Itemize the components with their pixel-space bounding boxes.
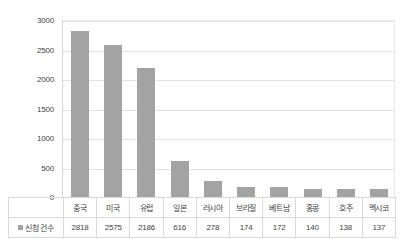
data-table: 중국미국유럽일본러시아브라질베트남홍콩호주멕시코 신청 건수 281825752… bbox=[8, 197, 396, 238]
bar bbox=[304, 189, 322, 197]
category-cell: 미국 bbox=[97, 198, 130, 218]
value-cell: 616 bbox=[163, 218, 196, 238]
bar bbox=[71, 31, 89, 197]
category-cell: 베트남 bbox=[263, 198, 296, 218]
category-cell: 중국 bbox=[64, 198, 97, 218]
value-cell: 2818 bbox=[64, 218, 97, 238]
bar-chart: 300025002000150010005000 중국미국유럽일본러시아브라질베… bbox=[0, 0, 409, 250]
value-cell: 140 bbox=[296, 218, 329, 238]
table-row-values: 신청 건수 281825752186616278174172140138137 bbox=[9, 218, 396, 238]
bar bbox=[337, 189, 355, 197]
legend-label: 신청 건수 bbox=[25, 224, 54, 233]
y-axis-tick-label: 1500 bbox=[37, 104, 54, 113]
table-corner-blank bbox=[9, 198, 64, 218]
y-axis-tick-label: 1000 bbox=[37, 134, 54, 143]
category-cell: 유럽 bbox=[130, 198, 163, 218]
bar bbox=[237, 187, 255, 197]
table-row-categories: 중국미국유럽일본러시아브라질베트남홍콩호주멕시코 bbox=[9, 198, 396, 218]
value-cell: 172 bbox=[263, 218, 296, 238]
value-cell: 2575 bbox=[97, 218, 130, 238]
bar bbox=[370, 189, 388, 197]
category-cell: 호주 bbox=[329, 198, 362, 218]
value-cell: 278 bbox=[196, 218, 229, 238]
y-axis-tick-label: 3000 bbox=[37, 16, 54, 25]
y-axis-tick-label: 2000 bbox=[37, 75, 54, 84]
value-cell: 174 bbox=[229, 218, 262, 238]
category-cell: 일본 bbox=[163, 198, 196, 218]
series-color-swatch-icon bbox=[18, 225, 23, 230]
value-cell: 2186 bbox=[130, 218, 163, 238]
y-axis-tick-label: 500 bbox=[41, 163, 54, 172]
category-cell: 브라질 bbox=[229, 198, 262, 218]
category-cell: 러시아 bbox=[196, 198, 229, 218]
bar-series bbox=[63, 21, 394, 197]
bar bbox=[270, 187, 288, 197]
bar bbox=[104, 45, 122, 197]
y-axis-tick-label: 2500 bbox=[37, 45, 54, 54]
category-cell: 홍콩 bbox=[296, 198, 329, 218]
bar bbox=[171, 161, 189, 197]
category-cell: 멕시코 bbox=[362, 198, 395, 218]
y-axis: 300025002000150010005000 bbox=[0, 20, 58, 197]
plot-area bbox=[62, 20, 395, 197]
bar bbox=[137, 68, 155, 197]
bar bbox=[204, 181, 222, 197]
value-cell: 138 bbox=[329, 218, 362, 238]
legend-entry: 신청 건수 bbox=[9, 218, 64, 238]
data-table-wrapper: 중국미국유럽일본러시아브라질베트남홍콩호주멕시코 신청 건수 281825752… bbox=[8, 197, 396, 237]
value-cell: 137 bbox=[362, 218, 395, 238]
